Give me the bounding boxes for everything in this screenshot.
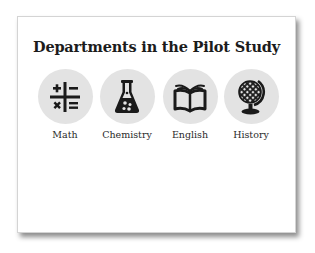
math-operators-icon xyxy=(49,81,81,113)
departments-card: Departments in the Pilot Study xyxy=(17,16,296,233)
department-history: History xyxy=(220,69,282,140)
department-label: Math xyxy=(34,129,96,140)
card-title: Departments in the Pilot Study xyxy=(18,38,295,55)
globe-icon xyxy=(236,78,266,116)
department-icon-circle xyxy=(224,69,279,124)
department-icon-circle xyxy=(100,69,155,124)
department-icon-circle xyxy=(38,69,93,124)
flask-icon xyxy=(113,79,141,115)
department-icon-circle xyxy=(163,69,218,124)
open-book-icon xyxy=(172,80,208,114)
department-label: English xyxy=(159,129,221,140)
department-label: History xyxy=(220,129,282,140)
department-chemistry: Chemistry xyxy=(96,69,158,140)
department-label: Chemistry xyxy=(96,129,158,140)
department-math: Math xyxy=(34,69,96,140)
department-english: English xyxy=(159,69,221,140)
